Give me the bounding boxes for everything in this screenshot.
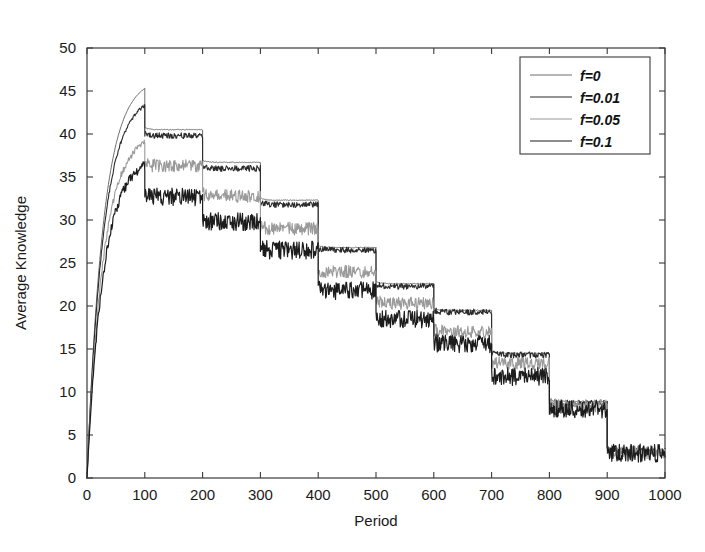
y-axis-tick-label: 0 (68, 469, 76, 486)
y-axis-tick-label: 40 (59, 125, 76, 142)
x-axis-tick-label: 100 (132, 486, 157, 503)
x-axis-title: Period (354, 512, 397, 529)
series-line-f01 (87, 162, 665, 478)
x-axis-tick-label: 600 (421, 486, 446, 503)
legend-label: f=0.05 (580, 112, 620, 128)
y-axis-tick-label: 50 (59, 39, 76, 56)
x-axis-tick-label: 700 (479, 486, 504, 503)
y-axis-title: Average Knowledge (12, 196, 29, 330)
x-axis-tick-label: 900 (595, 486, 620, 503)
legend-label: f=0 (580, 68, 601, 84)
x-axis-tick-label: 400 (306, 486, 331, 503)
y-axis-tick-label: 45 (59, 82, 76, 99)
x-axis-tick-label: 0 (83, 486, 91, 503)
x-axis-tick-label: 300 (248, 486, 273, 503)
y-axis-tick-label: 20 (59, 297, 76, 314)
x-axis-tick-label: 200 (190, 486, 215, 503)
y-axis-tick-label: 5 (68, 426, 76, 443)
legend-label: f=0.1 (580, 134, 613, 150)
y-axis-tick-label: 35 (59, 168, 76, 185)
y-axis-tick-label: 15 (59, 340, 76, 357)
legend-label: f=0.01 (580, 90, 620, 106)
line-chart: 0100200300400500600700800900100005101520… (0, 0, 705, 552)
x-axis-tick-label: 500 (363, 486, 388, 503)
y-axis-tick-label: 30 (59, 211, 76, 228)
x-axis-tick-label: 1000 (648, 486, 681, 503)
x-axis-tick-label: 800 (537, 486, 562, 503)
y-axis-tick-label: 25 (59, 254, 76, 271)
chart-figure: 0100200300400500600700800900100005101520… (0, 0, 705, 552)
y-axis-tick-label: 10 (59, 383, 76, 400)
